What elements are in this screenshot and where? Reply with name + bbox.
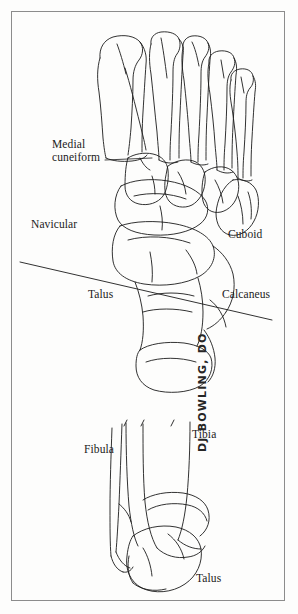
talus-bone-dorsal	[112, 222, 214, 286]
third-metatarsal	[182, 36, 211, 165]
label-calcaneus: Calcaneus	[222, 288, 270, 301]
label-talus-dorsal: Talus	[88, 288, 113, 301]
tibial-plafond	[143, 492, 209, 536]
label-fibula: Fibula	[84, 443, 114, 456]
anatomy-figure: Medial cuneiform Navicular Cuboid Talus …	[0, 0, 298, 614]
bone-line-drawing	[0, 0, 298, 614]
first-metatarsal	[98, 36, 147, 162]
intermediate-cuneiform-bone	[165, 160, 205, 207]
artist-signature: DJ BOWLING, DO	[196, 332, 209, 452]
second-metatarsal	[150, 32, 184, 163]
cuboid-bone	[216, 179, 258, 235]
talus-bone-anterior	[127, 526, 202, 592]
navicular-bone	[115, 180, 208, 236]
tibia-bone	[126, 422, 205, 558]
label-talus-anterior: Talus	[196, 572, 221, 585]
talar-neck	[135, 278, 203, 350]
calcaneus-bone-dorsal	[136, 300, 226, 392]
medial-cuneiform-leader-line	[105, 158, 152, 160]
label-medial-cuneiform: Medial cuneiform	[52, 138, 100, 164]
fifth-metatarsal	[230, 69, 256, 181]
label-cuboid: Cuboid	[228, 228, 262, 241]
shaft-tick-marks	[124, 420, 174, 426]
label-navicular: Navicular	[31, 218, 77, 231]
